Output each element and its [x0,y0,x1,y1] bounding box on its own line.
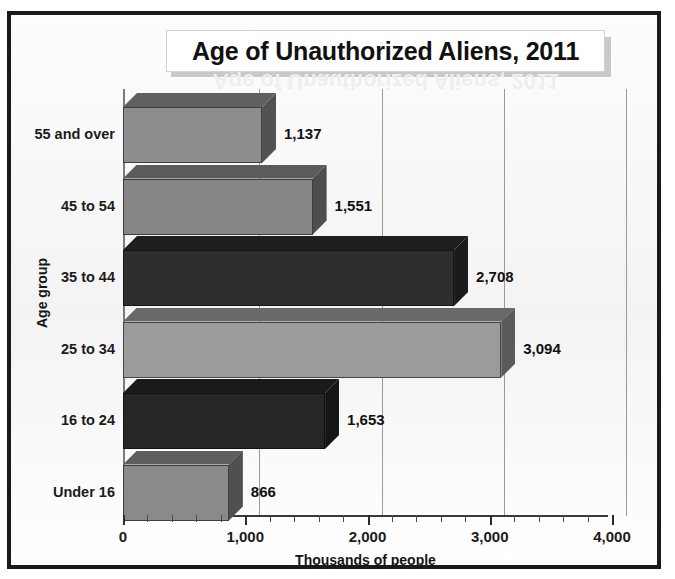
bar-value-label: 3,094 [523,340,561,357]
bar[interactable] [123,465,229,521]
gridline [504,89,505,516]
x-axis-minor-tick [196,515,197,522]
x-axis-minor-tick [392,515,393,522]
x-axis-title: Thousands of people [123,552,608,568]
x-axis-major-tick [245,515,247,525]
bar-value-label: 1,137 [284,125,322,142]
x-axis-minor-tick [294,515,295,522]
plot-area: 01,0002,0003,0004,000 55 and over45 to 5… [11,15,657,565]
bar-top-face [123,308,515,322]
y-axis-tick-label: 55 and over [11,126,115,142]
x-axis-minor-tick [172,515,173,522]
bar-value-label: 1,653 [347,411,385,428]
x-axis-minor-tick [319,515,320,522]
y-axis-tick-label: 45 to 54 [11,198,115,214]
x-axis-minor-tick [343,515,344,522]
x-axis-tick-label: 4,000 [593,528,631,545]
x-axis-minor-tick [588,515,589,522]
chart-frame: Age of Unauthorized Aliens, 2011 Age of … [7,11,661,569]
x-axis-tick-label: 2,000 [349,528,387,545]
bar[interactable] [123,250,454,306]
bar-value-label: 1,551 [335,197,373,214]
bar-top-face [123,451,243,465]
bar-value-label: 2,708 [476,268,514,285]
x-axis-tick-label: 3,000 [471,528,509,545]
x-axis-tick-label: 1,000 [226,528,264,545]
bar[interactable] [123,107,262,163]
x-axis-major-tick [123,515,125,525]
x-axis-major-tick [368,515,370,525]
bar-front-face [123,465,229,521]
bar-top-face [123,236,468,250]
bar[interactable] [123,322,501,378]
y-axis-title: Age group [34,238,50,348]
y-axis-tick-label: Under 16 [11,484,115,500]
bar-front-face [123,322,501,378]
gridline [626,89,627,516]
bar-top-face [123,165,327,179]
x-axis-minor-tick [221,515,222,522]
bar-value-label: 866 [251,483,276,500]
bar[interactable] [123,179,313,235]
x-axis-major-tick [490,515,492,525]
x-axis-minor-tick [465,515,466,522]
x-axis-minor-tick [441,515,442,522]
x-axis-minor-tick [147,515,148,522]
x-axis-minor-tick [416,515,417,522]
x-axis-tick-label: 0 [119,528,127,545]
x-axis-minor-tick [563,515,564,522]
y-axis-tick-label: 25 to 34 [11,341,115,357]
y-axis-tick-label: 16 to 24 [11,412,115,428]
bar-top-face [123,93,276,107]
bar-front-face [123,179,313,235]
bar-front-face [123,250,454,306]
bar[interactable] [123,393,325,449]
x-axis-minor-tick [270,515,271,522]
x-axis-major-tick [612,515,614,525]
x-axis-minor-tick [514,515,515,522]
x-axis-minor-tick [539,515,540,522]
bar-front-face [123,393,325,449]
bar-front-face [123,107,262,163]
bar-top-face [123,379,339,393]
y-axis-tick-label: 35 to 44 [11,269,115,285]
